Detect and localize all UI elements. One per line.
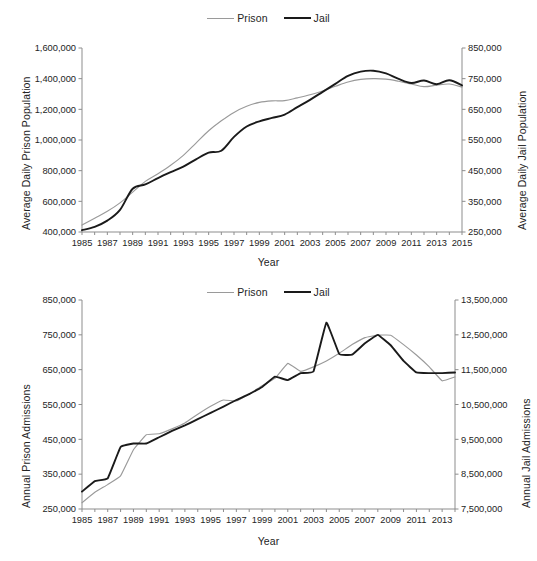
svg-text:250,000: 250,000	[42, 504, 76, 514]
svg-text:2009: 2009	[376, 238, 397, 248]
svg-text:650,000: 650,000	[42, 365, 76, 375]
x-axis-title-bottom: Year	[0, 535, 537, 547]
svg-text:450,000: 450,000	[468, 166, 502, 176]
svg-text:2015: 2015	[452, 238, 473, 248]
svg-text:1989: 1989	[123, 515, 144, 525]
svg-text:1995: 1995	[198, 238, 219, 248]
svg-text:1997: 1997	[224, 238, 245, 248]
svg-text:1,000,000: 1,000,000	[35, 135, 76, 145]
svg-text:550,000: 550,000	[468, 135, 502, 145]
svg-text:13,500,000: 13,500,000	[461, 295, 508, 305]
svg-text:2011: 2011	[401, 238, 421, 248]
svg-text:2013: 2013	[426, 238, 447, 248]
svg-text:850,000: 850,000	[42, 295, 76, 305]
svg-text:1985: 1985	[72, 515, 93, 525]
svg-text:10,500,000: 10,500,000	[461, 400, 508, 410]
plot-area-annual-admissions: 250,000350,000450,000550,000650,000750,0…	[0, 280, 537, 561]
svg-text:1987: 1987	[97, 515, 118, 525]
svg-text:1,400,000: 1,400,000	[35, 74, 76, 84]
svg-text:1991: 1991	[148, 238, 169, 248]
y-axis-title-left-top: Average Daily Prison Population	[20, 77, 32, 231]
svg-text:1999: 1999	[252, 515, 273, 525]
svg-text:450,000: 450,000	[42, 435, 76, 445]
svg-text:8,500,000: 8,500,000	[461, 469, 502, 479]
svg-text:600,000: 600,000	[42, 197, 76, 207]
svg-text:1,600,000: 1,600,000	[35, 43, 76, 53]
svg-text:350,000: 350,000	[42, 469, 76, 479]
svg-text:400,000: 400,000	[42, 227, 76, 237]
svg-text:650,000: 650,000	[468, 105, 502, 115]
figure-annual-admissions: Prison Jail 250,000350,000450,000550,000…	[0, 280, 537, 561]
svg-text:1991: 1991	[149, 515, 170, 525]
svg-text:1987: 1987	[97, 238, 118, 248]
svg-text:2001: 2001	[277, 515, 298, 525]
svg-text:2007: 2007	[350, 238, 371, 248]
svg-text:2013: 2013	[432, 515, 453, 525]
svg-text:1999: 1999	[249, 238, 270, 248]
svg-text:9,500,000: 9,500,000	[461, 435, 502, 445]
svg-text:2005: 2005	[329, 515, 350, 525]
y-axis-title-right-bottom: Annual Jail Admissions	[520, 398, 532, 508]
svg-text:250,000: 250,000	[468, 227, 502, 237]
svg-text:2003: 2003	[300, 238, 321, 248]
x-axis-title-top: Year	[0, 256, 537, 268]
svg-text:2003: 2003	[303, 515, 324, 525]
svg-text:1993: 1993	[173, 238, 194, 248]
y-axis-title-right-top: Average Daily Jail Population	[516, 91, 528, 230]
y-axis-title-left-bottom: Annual Prison Admissions	[20, 384, 32, 508]
svg-text:2011: 2011	[406, 515, 426, 525]
svg-text:12,500,000: 12,500,000	[461, 330, 508, 340]
svg-text:7,500,000: 7,500,000	[461, 504, 502, 514]
figure-average-daily-population: Prison Jail 400,000600,000800,0001,000,0…	[0, 0, 537, 280]
svg-text:1,200,000: 1,200,000	[35, 105, 76, 115]
svg-text:1993: 1993	[175, 515, 196, 525]
svg-text:2005: 2005	[325, 238, 346, 248]
svg-text:850,000: 850,000	[468, 43, 502, 53]
plot-area-average-daily-population: 400,000600,000800,0001,000,0001,200,0001…	[0, 0, 537, 280]
svg-text:11,500,000: 11,500,000	[461, 365, 507, 375]
svg-text:2007: 2007	[355, 515, 376, 525]
svg-text:750,000: 750,000	[42, 330, 76, 340]
svg-text:350,000: 350,000	[468, 197, 502, 207]
svg-text:1995: 1995	[200, 515, 221, 525]
svg-text:2009: 2009	[380, 515, 401, 525]
svg-text:1989: 1989	[122, 238, 143, 248]
svg-text:550,000: 550,000	[42, 400, 76, 410]
svg-text:2001: 2001	[274, 238, 295, 248]
svg-text:1997: 1997	[226, 515, 247, 525]
svg-text:800,000: 800,000	[42, 166, 76, 176]
svg-text:1985: 1985	[72, 238, 93, 248]
svg-text:750,000: 750,000	[468, 74, 502, 84]
